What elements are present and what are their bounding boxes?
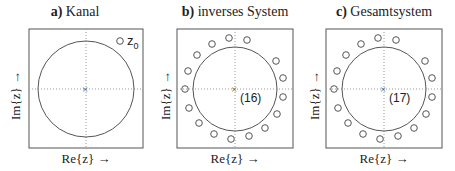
svg-text:×: ×: [380, 83, 386, 95]
panel-kanal: a) Kanal × z0 Im{z} → Re{z} →: [0, 0, 150, 171]
pole-order-label: (16): [240, 91, 261, 105]
svg-text:×: ×: [231, 83, 237, 95]
panel-inverses-system: b) inverses System × (16) Im{z} → Re{z} …: [150, 0, 300, 171]
x-axis-label: Re{z} →: [11, 151, 161, 167]
zero-label: z0: [127, 33, 139, 51]
y-axis-label: Im{z} →: [307, 71, 323, 120]
pole-order-label: (17): [389, 91, 410, 105]
pole-marker: ×: [82, 83, 88, 95]
panel-gesamtsystem: c) Gesamtsystem × (17) Im{z} → Re{z} →: [297, 0, 447, 171]
x-axis-label: Re{z} →: [160, 151, 310, 167]
y-axis-label: Im{z} →: [8, 71, 24, 120]
y-axis-label: Im{z} →: [158, 71, 174, 120]
x-axis-label: Re{z} →: [309, 151, 455, 167]
